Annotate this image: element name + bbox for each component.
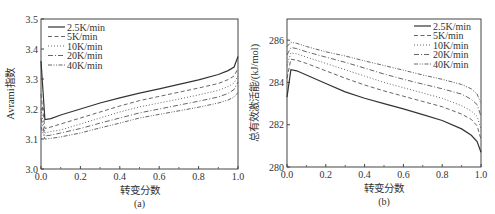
y-tick-label: 3.0	[26, 164, 39, 175]
legend-label: 40K/min	[67, 60, 103, 71]
y-axis-label: Avrami指数	[4, 67, 16, 119]
chart-canvas: 0.00.20.40.60.81.03.03.13.23.33.43.5转变分数…	[0, 0, 495, 214]
x-axis-label: 转变分数	[120, 184, 161, 196]
chart-panel-b: 0.00.20.40.60.81.0280282284286转变分数总有效激活能…	[248, 19, 487, 208]
y-tick-label: 3.4	[26, 44, 39, 55]
x-tick-label: 0.4	[358, 169, 371, 180]
y-axis-label: 总有效激活能/(kJ/mol)	[248, 43, 261, 142]
y-tick-label: 282	[269, 119, 284, 130]
y-tick-label: 3.2	[26, 104, 39, 115]
series-line-40k-min	[41, 93, 238, 140]
series-line-20k-min	[41, 82, 238, 136]
y-tick-label: 286	[269, 35, 284, 46]
x-tick-label: 0.8	[192, 171, 205, 182]
x-axis-label: 转变分数	[364, 182, 405, 194]
legend-label: 40K/min	[433, 59, 469, 70]
y-tick-label: 3.3	[26, 74, 39, 85]
y-tick-label: 280	[269, 162, 284, 173]
y-tick-label: 284	[269, 77, 284, 88]
y-tick-label: 3.1	[26, 134, 39, 145]
panel-label: (a)	[134, 198, 145, 210]
x-tick-label: 0.8	[436, 169, 449, 180]
x-tick-label: 1.0	[232, 171, 245, 182]
panel-label: (b)	[378, 196, 390, 208]
x-tick-label: 0.4	[114, 171, 127, 182]
x-tick-label: 0.6	[397, 169, 410, 180]
chart-panel-a: 0.00.20.40.60.81.03.03.13.23.33.43.5转变分数…	[4, 14, 244, 211]
x-tick-label: 0.2	[74, 171, 87, 182]
series-line-5k-min	[287, 59, 481, 139]
x-tick-label: 0.6	[153, 171, 166, 182]
x-tick-label: 0.2	[320, 169, 333, 180]
x-tick-label: 1.0	[475, 169, 488, 180]
series-line-10k-min	[41, 76, 238, 133]
y-tick-label: 3.5	[26, 14, 39, 25]
